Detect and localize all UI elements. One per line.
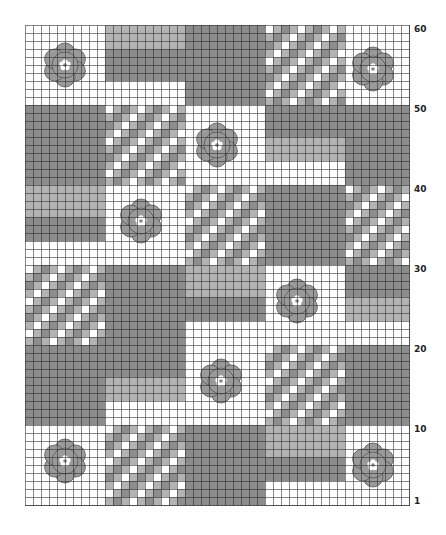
block-dark — [345, 265, 409, 297]
block-dark — [105, 345, 185, 377]
block-dark — [25, 105, 105, 185]
block-dark — [25, 345, 105, 425]
block-dark — [345, 345, 409, 425]
row-label: 10 — [414, 424, 427, 434]
block-dark — [25, 217, 105, 241]
block-white — [265, 481, 345, 505]
flower-icon — [347, 43, 399, 95]
pattern-chart-grid — [25, 25, 409, 505]
block-light — [185, 265, 265, 297]
block-check — [185, 185, 265, 265]
block-light — [25, 185, 105, 217]
block-white — [185, 321, 265, 345]
block-dark — [105, 265, 185, 345]
block-check — [265, 25, 345, 105]
flower-icon — [39, 435, 91, 487]
flower-icon — [191, 119, 243, 171]
block-dark — [265, 105, 345, 137]
block-dark — [185, 425, 265, 505]
block-light — [345, 297, 409, 321]
block-dark — [185, 297, 265, 321]
row-label: 20 — [414, 344, 427, 354]
block-light — [105, 377, 185, 401]
block-light — [265, 137, 345, 161]
flower-icon — [195, 355, 247, 407]
row-label: 40 — [414, 184, 427, 194]
block-check — [105, 105, 185, 185]
block-light — [105, 25, 185, 49]
flower-icon — [271, 275, 323, 327]
block-dark — [265, 457, 345, 481]
block-white — [345, 321, 409, 345]
row-label: 30 — [414, 264, 427, 274]
block-check — [25, 265, 105, 345]
block-dark — [185, 25, 265, 105]
flower-icon — [347, 439, 399, 491]
block-check — [345, 185, 409, 265]
flower-icon — [39, 39, 91, 91]
block-check — [265, 345, 345, 425]
block-white — [105, 401, 185, 425]
flower-icon — [115, 195, 167, 247]
block-white — [265, 161, 345, 185]
block-white — [25, 241, 105, 265]
block-dark — [345, 105, 409, 185]
row-label: 50 — [414, 104, 427, 114]
row-label: 60 — [414, 24, 427, 34]
block-check — [105, 425, 185, 505]
row-label: 1 — [414, 496, 420, 506]
block-light — [265, 425, 345, 457]
block-dark — [265, 185, 345, 265]
block-white — [105, 81, 185, 105]
block-dark — [105, 49, 185, 81]
